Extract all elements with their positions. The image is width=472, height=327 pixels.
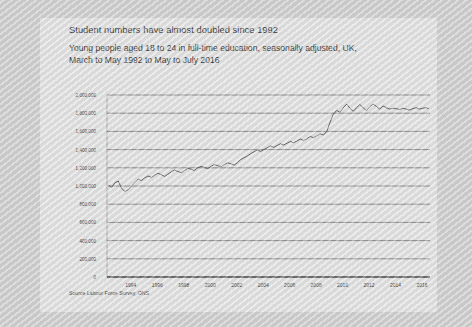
y-axis-tick-label: 0 <box>52 275 96 280</box>
y-axis-tick-label: 1,600,000 <box>52 129 96 134</box>
chart-card: Student numbers have almost doubled sinc… <box>40 18 437 312</box>
y-axis-tick-label: 1,800,000 <box>52 111 96 116</box>
y-axis-tick-label: 1,400,000 <box>52 147 96 152</box>
data-line <box>108 104 428 191</box>
chart-source: Source Labour Force Survey, ONS <box>69 290 149 296</box>
y-axis-tick-label: 200,000 <box>52 256 96 261</box>
x-axis-tick-label: 2016 <box>407 282 437 288</box>
y-axis-tick-label: 1,200,000 <box>52 165 96 170</box>
y-axis-tick-label: 1,000,000 <box>52 184 96 189</box>
y-axis-tick-label: 2,000,000 <box>52 93 96 98</box>
y-axis-tick-label: 600,000 <box>52 220 96 225</box>
line-chart-plot: 2,000,0001,800,0001,600,0001,400,0001,20… <box>40 18 437 312</box>
y-axis-tick-label: 400,000 <box>52 238 96 243</box>
chart-svg <box>40 18 437 312</box>
y-axis-tick-label: 800,000 <box>52 202 96 207</box>
